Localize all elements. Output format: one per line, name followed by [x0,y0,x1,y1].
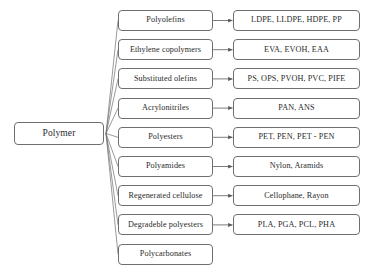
category-node-label: Polyolefins [146,16,184,24]
examples-node[interactable]: PS, OPS, PVOH, PVC, PIFE [233,68,360,89]
examples-node-label: EVA, EVOH, EAA [264,46,329,54]
examples-node[interactable]: Cellophane, Rayon [233,185,360,206]
root-to-category-edge [106,134,118,167]
examples-node[interactable]: Nylon, Aramids [233,156,360,177]
category-node-label: Acrylonitriles [142,104,189,112]
examples-node-label: LDPE, LLDPE, HDPE, PP [251,16,342,24]
examples-node[interactable]: EVA, EVOH, EAA [233,39,360,60]
category-node-label: Polyesters [148,133,183,141]
category-node-label: Degradeble polyesters [128,221,203,229]
examples-node[interactable]: PAN, ANS [233,98,360,119]
category-node-label: Regenerated cellulose [128,192,202,200]
category-node[interactable]: Polyesters [118,127,213,148]
category-node-label: Substituted olefins [134,75,197,83]
examples-node-label: PLA, PGA, PCL, PHA [258,221,335,229]
category-node[interactable]: Polyolefins [118,10,213,31]
category-node[interactable]: Degradeble polyesters [118,214,213,235]
root-to-category-edge [106,79,118,134]
root-to-category-edge [106,134,118,138]
examples-node-label: Nylon, Aramids [270,162,324,170]
examples-node[interactable]: PLA, PGA, PCL, PHA [233,214,360,235]
category-to-example-arrows [213,21,233,225]
category-node[interactable]: Polycarbonates [118,244,213,265]
root-fan-connectors [106,21,118,255]
examples-node-label: PAN, ANS [278,104,314,112]
polymer-classification-diagram: Polymer PolyolefinsEthylene copolymersSu… [0,0,365,277]
examples-node-label: PET, PEN, PET - PEN [258,133,334,141]
root-to-category-edge [106,134,118,196]
root-to-category-edge [106,50,118,134]
node-polymer-root[interactable]: Polymer [14,122,104,145]
examples-node-label: Cellophane, Rayon [264,192,328,200]
category-node-label: Ethylene copolymers [130,46,201,54]
category-node-label: Polycarbonates [140,250,191,258]
category-node-label: Polyamides [146,162,185,170]
category-node[interactable]: Acrylonitriles [118,98,213,119]
category-node[interactable]: Polyamides [118,156,213,177]
examples-node[interactable]: PET, PEN, PET - PEN [233,127,360,148]
examples-node-label: PS, OPS, PVOH, PVC, PIFE [248,75,346,83]
root-to-category-edge [106,21,118,134]
root-to-category-edge [106,108,118,133]
root-to-category-edge [106,134,118,225]
category-node[interactable]: Substituted olefins [118,68,213,89]
examples-node[interactable]: LDPE, LLDPE, HDPE, PP [233,10,360,31]
node-polymer-root-label: Polymer [43,129,76,139]
category-node[interactable]: Regenerated cellulose [118,185,213,206]
category-node[interactable]: Ethylene copolymers [118,39,213,60]
root-to-category-edge [106,134,118,255]
